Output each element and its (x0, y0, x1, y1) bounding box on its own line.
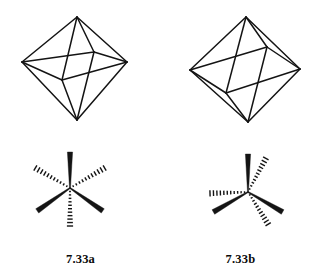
hash-tick (88, 175, 90, 178)
hashed-wedge-down (67, 191, 73, 226)
hash-tick (47, 173, 49, 177)
hash-tick (256, 173, 260, 175)
solid-wedge-lower-right (248, 192, 284, 215)
stereocenter-diagram-b (160, 0, 321, 250)
hashed-wedge-upper-left (34, 165, 68, 187)
hash-tick (100, 167, 103, 172)
figure-root: 7.33a 7.33b (0, 0, 321, 280)
hashed-wedge-upper-right (249, 157, 269, 189)
hash-tick (60, 181, 61, 183)
hash-tick (261, 214, 265, 217)
hash-tick (76, 183, 77, 185)
hash-tick (264, 220, 269, 223)
hash-tick (252, 182, 254, 183)
hashed-wedge-upper-right (73, 165, 107, 187)
hash-tick (254, 203, 257, 205)
hash-tick (262, 160, 267, 163)
hash-tick (53, 177, 55, 180)
hash-tick (262, 217, 267, 220)
hash-tick (257, 209, 260, 211)
solid-wedge-lower-right (70, 188, 105, 213)
hash-tick (85, 177, 87, 180)
hash-tick (91, 173, 93, 177)
figure-label-b: 7.33b (160, 252, 321, 267)
hash-tick (259, 166, 263, 168)
hash-tick (103, 165, 106, 170)
hash-tick (255, 176, 258, 178)
hash-tick (263, 157, 268, 160)
hash-tick (257, 170, 261, 172)
hash-tick (249, 189, 251, 190)
hash-tick (34, 165, 37, 170)
hash-tick (40, 169, 43, 174)
hash-tick (252, 200, 254, 201)
stereocenter-diagram-a (0, 0, 161, 250)
hash-tick (37, 167, 40, 172)
hash-tick (82, 179, 84, 182)
hash-tick (79, 181, 80, 183)
hash-tick (259, 211, 263, 213)
hashed-wedge-left (210, 190, 245, 196)
hash-tick (256, 206, 259, 208)
solid-wedge-up (245, 154, 250, 192)
hash-tick (50, 175, 52, 178)
hash-tick (250, 185, 252, 186)
hash-tick (57, 179, 59, 182)
hash-tick (66, 185, 67, 187)
hash-tick (251, 197, 253, 198)
hash-tick (63, 183, 64, 185)
hash-tick (97, 169, 100, 174)
hash-tick (94, 171, 96, 175)
hash-tick (73, 185, 74, 187)
solid-wedge-lower-left (36, 188, 71, 213)
figure-panel-a: 7.33a (0, 0, 161, 280)
hash-tick (44, 171, 46, 175)
hash-tick (266, 223, 271, 226)
figure-panel-b: 7.33b (160, 0, 321, 280)
figure-label-a: 7.33a (0, 252, 161, 267)
hash-tick (253, 179, 256, 180)
hash-tick (249, 194, 251, 195)
hash-tick (260, 163, 265, 166)
solid-wedge-up (67, 152, 72, 188)
